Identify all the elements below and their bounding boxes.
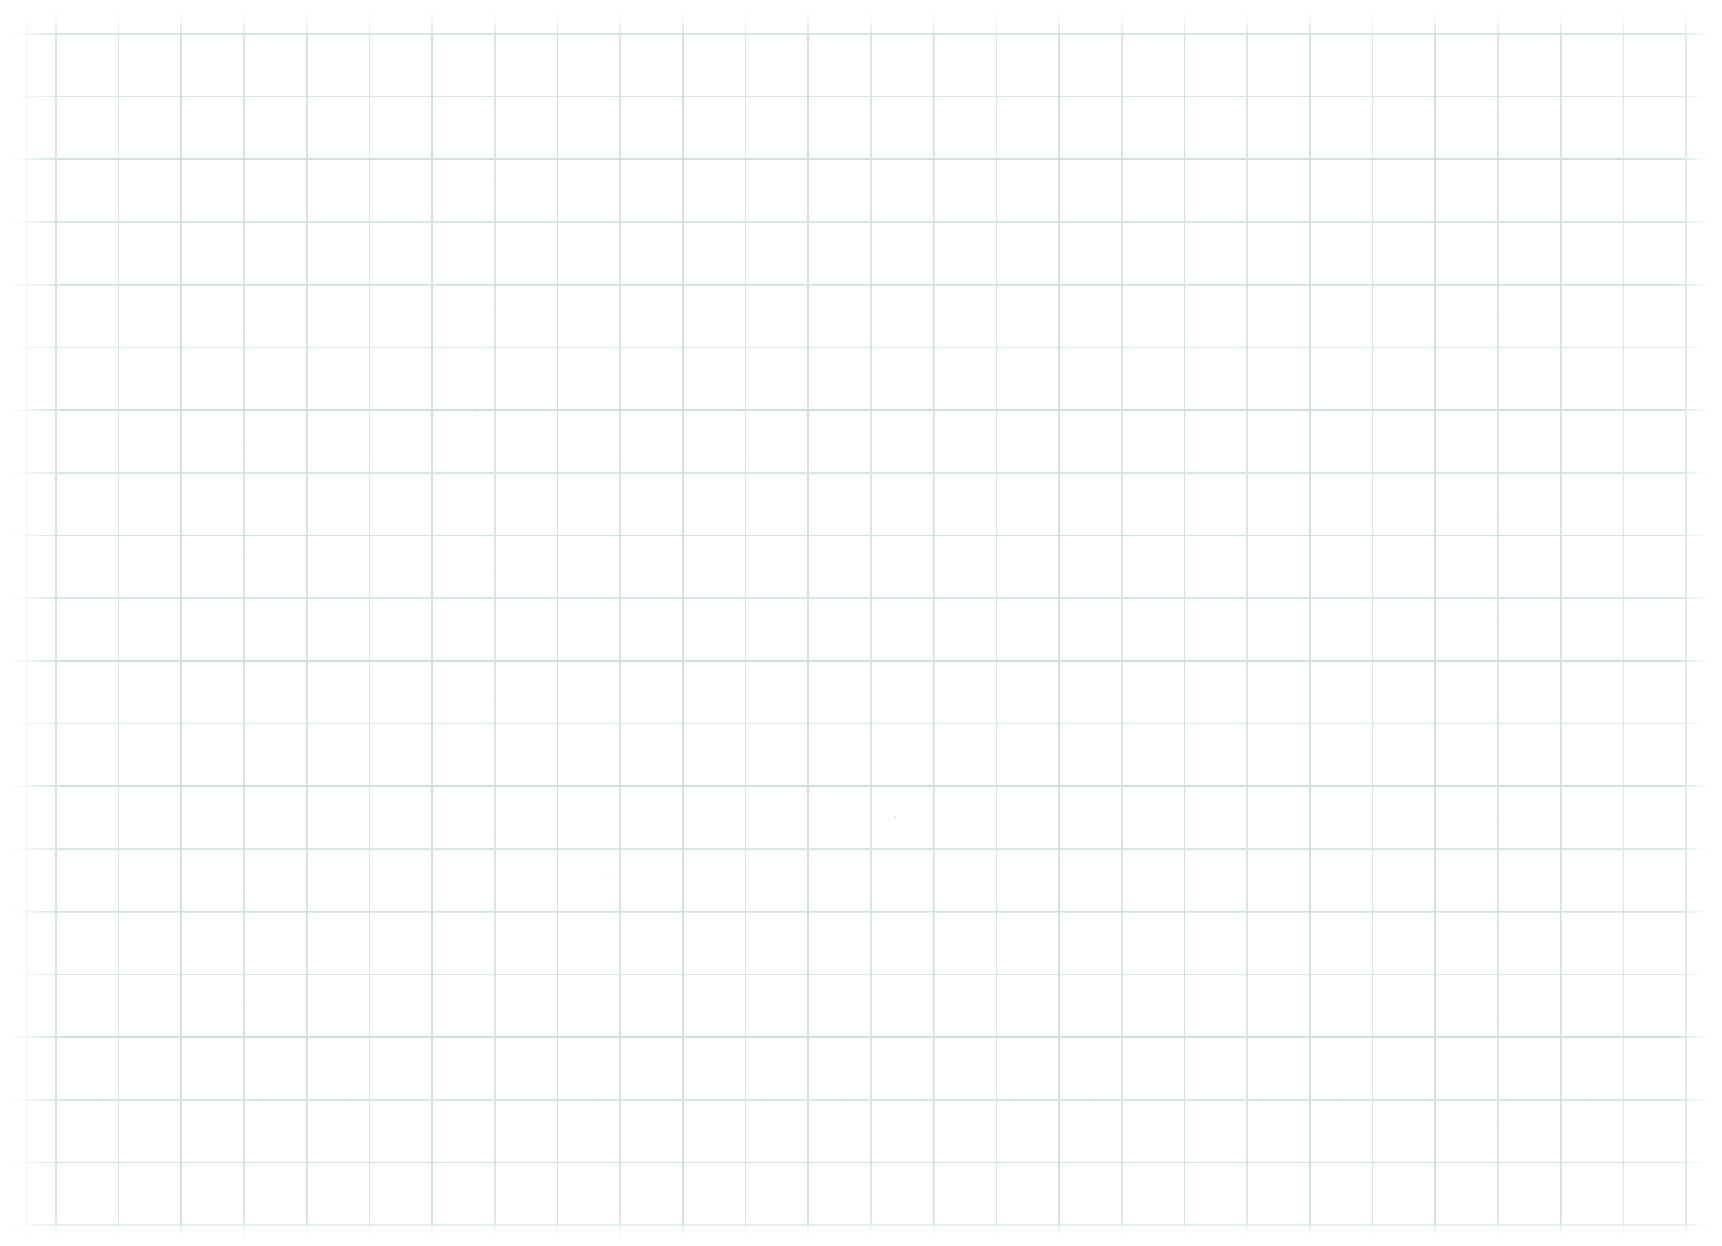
graph-paper-sheet: [0, 0, 1722, 1246]
paper-background: [0, 0, 1722, 1246]
